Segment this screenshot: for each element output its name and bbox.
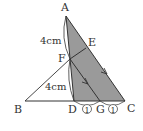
- ratio-label-dg: 1: [85, 106, 90, 115]
- label-g: G: [96, 103, 105, 116]
- label-c: C: [127, 102, 135, 115]
- geometry-figure: A B C D E F G 4cm 4cm 1 1: [0, 0, 143, 131]
- segment-bf: [25, 59, 70, 101]
- label-f: F: [58, 52, 66, 65]
- label-e: E: [88, 36, 96, 49]
- length-label-fd: 4cm: [45, 81, 67, 92]
- length-label-af: 4cm: [40, 35, 62, 46]
- label-a: A: [60, 1, 70, 14]
- label-b: B: [14, 103, 22, 116]
- ratio-label-gc: 1: [111, 106, 116, 115]
- label-d: D: [68, 103, 77, 116]
